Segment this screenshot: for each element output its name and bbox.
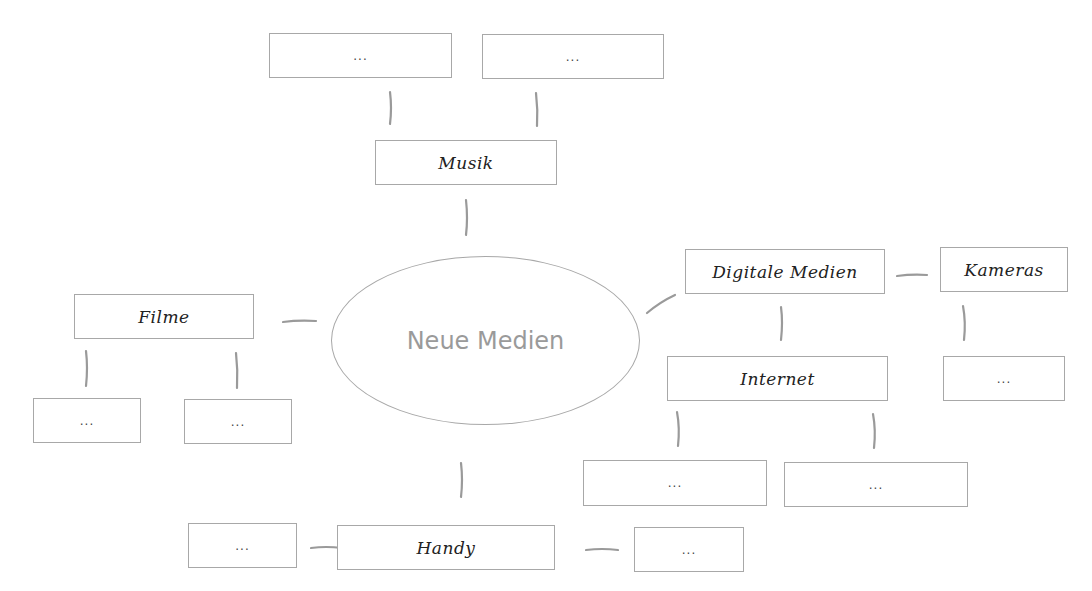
connector-internet-child1 (677, 412, 679, 446)
center-node[interactable]: Neue Medien (331, 256, 640, 425)
placeholder-text: ... (668, 476, 682, 490)
node-label: Handy (417, 538, 476, 558)
node-label: Internet (740, 369, 815, 389)
connector-filme-center (283, 321, 316, 322)
connector-digitale-internet (781, 307, 782, 340)
connector-filme-child1 (86, 351, 87, 386)
node-label: Musik (438, 153, 493, 173)
node-digitale-medien[interactable]: Digitale Medien (685, 249, 885, 294)
placeholder-text: ... (566, 50, 580, 64)
connector-filme-child2 (236, 353, 237, 388)
internet-child-box-2[interactable]: ... (784, 462, 968, 507)
node-internet[interactable]: Internet (667, 356, 888, 401)
node-label: Digitale Medien (712, 262, 858, 282)
connector-musik-child2 (536, 93, 537, 126)
kameras-child-box[interactable]: ... (943, 356, 1065, 401)
musik-child-box-2[interactable]: ... (482, 34, 664, 79)
placeholder-text: ... (235, 539, 249, 553)
internet-child-box-1[interactable]: ... (583, 460, 767, 506)
placeholder-text: ... (80, 414, 94, 428)
center-label: Neue Medien (407, 327, 565, 355)
node-label: Kameras (964, 260, 1044, 280)
connector-center-digitale (647, 295, 675, 313)
node-label: Filme (138, 307, 189, 327)
filme-child-box-1[interactable]: ... (33, 398, 141, 443)
filme-child-box-2[interactable]: ... (184, 399, 292, 444)
connector-kameras-child (963, 306, 965, 340)
handy-child-box-left[interactable]: ... (188, 523, 297, 568)
placeholder-text: ... (997, 372, 1011, 386)
handy-child-box-right[interactable]: ... (634, 527, 744, 572)
placeholder-text: ... (353, 49, 367, 63)
placeholder-text: ... (869, 478, 883, 492)
connector-musik-center (466, 200, 467, 235)
node-musik[interactable]: Musik (375, 140, 557, 185)
connector-digitale-kameras (897, 275, 927, 276)
musik-child-box-1[interactable]: ... (269, 33, 452, 78)
placeholder-text: ... (682, 543, 696, 557)
connector-internet-child2 (873, 414, 875, 448)
node-handy[interactable]: Handy (337, 525, 555, 570)
connector-handy-right (586, 549, 618, 550)
placeholder-text: ... (231, 415, 245, 429)
node-kameras[interactable]: Kameras (940, 247, 1068, 292)
connector-musik-child1 (390, 92, 391, 124)
connector-center-handy (461, 463, 462, 497)
node-filme[interactable]: Filme (74, 294, 254, 339)
